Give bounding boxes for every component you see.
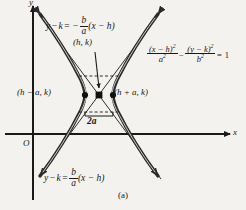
asym-lower-factor: (x − h) — [78, 173, 104, 183]
vertex-left-label: (h − a, k) — [17, 88, 51, 97]
axis-group — [5, 6, 230, 200]
hyperbola-y-numerator-exponent: 2 — [211, 43, 214, 49]
figure-caption: (a) — [0, 190, 246, 200]
vertex-right-label: (h + a, k) — [114, 88, 148, 97]
hyperbola-y-binomial: (y − k) — [187, 44, 210, 54]
asym-upper-slope-fraction: b a — [80, 16, 89, 36]
asym-lower-numerator: b — [69, 168, 78, 179]
hyperbola-term-y-denominator: b2 — [185, 54, 215, 63]
hyperbola-b-exponent: 2 — [201, 53, 204, 59]
asym-upper-sign: − — [71, 21, 79, 31]
asym-upper-factor: (x − h) — [88, 21, 114, 31]
origin-label: O — [23, 139, 30, 148]
asym-upper-minus: − — [50, 21, 58, 31]
hyperbola-standard-equation-label: (x − h)2 a2 − (y − k)2 b2 =1 — [147, 44, 231, 64]
hyperbola-figure: y−k=− b a (x − h) y−k= b a (x − h) (x − … — [0, 0, 246, 210]
hyperbola-operator: − — [178, 50, 186, 60]
hyperbola-plot — [0, 0, 246, 210]
asym-lower-slope-fraction: b a — [69, 168, 78, 188]
asym-upper-denominator: a — [80, 27, 89, 37]
hyperbola-term-x: (x − h)2 a2 — [147, 44, 178, 64]
transverse-axis-length-label: 2a — [87, 117, 97, 127]
asym-lower-minus: − — [48, 173, 56, 183]
asym-lower-equals: = — [61, 173, 69, 183]
center-dot — [96, 92, 103, 99]
center-pointer-arrow — [95, 52, 99, 88]
y-axis-label: y — [29, 0, 33, 7]
vertex-left-dot — [82, 92, 88, 98]
hyperbola-x-numerator-exponent: 2 — [173, 43, 176, 49]
asym-lower-denominator: a — [69, 179, 78, 189]
hyperbola-term-y: (y − k)2 b2 — [185, 44, 215, 64]
x-axis-label: x — [233, 128, 237, 137]
hyperbola-term-x-denominator: a2 — [147, 54, 178, 63]
point-markers — [82, 92, 116, 99]
asymptote-upper-equation-label: y−k=− b a (x − h) — [46, 16, 115, 36]
center-point-label: (h, k) — [73, 38, 92, 47]
hyperbola-rhs: 1 — [223, 50, 230, 60]
asym-upper-numerator: b — [80, 16, 89, 27]
hyperbola-x-binomial: (x − h) — [149, 44, 173, 54]
asym-upper-equals: = — [63, 21, 71, 31]
hyperbola-a-exponent: 2 — [163, 53, 166, 59]
asymptote-lower-equation-label: y−k= b a (x − h) — [44, 168, 104, 188]
